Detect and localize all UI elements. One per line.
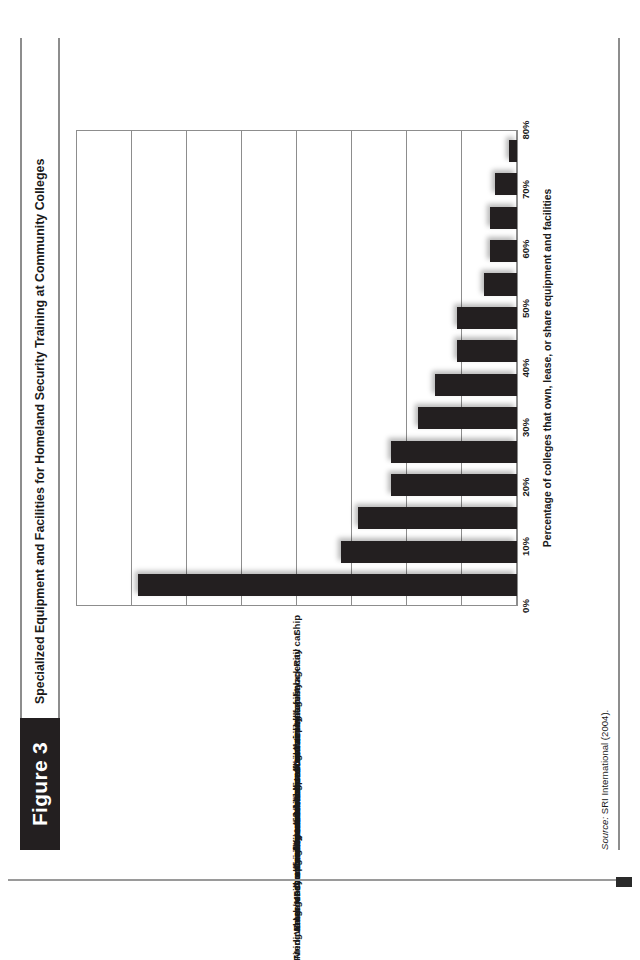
category-slot: Ship xyxy=(76,609,518,626)
figure-source: Source: SRI International (2004). xyxy=(599,709,610,849)
source-text: SRI International (2004). xyxy=(599,709,610,816)
plot-area xyxy=(76,130,518,606)
figure-header: Figure 3 Specialized Equipment and Facil… xyxy=(20,38,60,850)
bar-slot xyxy=(77,301,517,334)
value-axis-ticks: 0%10%20%30%40%50%60%70%80% xyxy=(520,130,540,606)
bar xyxy=(391,440,518,462)
tick-label: 60% xyxy=(520,239,531,258)
bar xyxy=(509,139,517,161)
bar xyxy=(358,507,518,529)
page-corner-marker xyxy=(616,877,632,887)
figure-number-tab: Figure 3 xyxy=(20,718,60,850)
bar-slot xyxy=(77,434,517,467)
bar-slot xyxy=(77,501,517,534)
tick-label: 40% xyxy=(520,358,531,377)
bar xyxy=(391,474,518,496)
figure-rotated-wrapper: Figure 3 Specialized Equipment and Facil… xyxy=(20,38,620,850)
bar xyxy=(490,206,518,228)
bar xyxy=(341,540,517,562)
category-axis-labels: Medical lab/Medical facilityFiring range… xyxy=(76,606,518,850)
bar-slot xyxy=(77,368,517,401)
tick-label: 80% xyxy=(520,120,531,139)
bar xyxy=(490,240,518,262)
bar xyxy=(138,574,518,596)
figure-header-rule xyxy=(58,38,60,718)
bar-slot xyxy=(77,234,517,267)
bar xyxy=(457,340,518,362)
figure-title: Specialized Equipment and Facilities for… xyxy=(20,158,60,703)
bar-slot xyxy=(77,535,517,568)
chart-block: Medical lab/Medical facilityFiring range… xyxy=(62,38,582,850)
page-bottom-rule xyxy=(8,879,632,881)
bar xyxy=(484,273,517,295)
bar-slot xyxy=(77,334,517,367)
value-axis-title: Percentage of colleges that own, lease, … xyxy=(542,130,553,606)
bar xyxy=(495,173,517,195)
bar xyxy=(435,373,518,395)
bar-slot xyxy=(77,200,517,233)
category-label: Ship xyxy=(292,615,302,636)
bar xyxy=(457,306,518,328)
bar-slot xyxy=(77,267,517,300)
bar-slot xyxy=(77,568,517,601)
tick-label: 0% xyxy=(520,599,531,613)
bar-slot xyxy=(77,468,517,501)
bar-slot xyxy=(77,401,517,434)
bar-slot xyxy=(77,167,517,200)
tick-label: 50% xyxy=(520,298,531,317)
figure-bottom-rule xyxy=(618,38,620,850)
category-label: Rail car xyxy=(292,632,302,667)
figure-container: Figure 3 Specialized Equipment and Facil… xyxy=(20,38,620,850)
source-prefix: Source: xyxy=(599,816,610,849)
bar xyxy=(418,407,517,429)
tick-label: 30% xyxy=(520,417,531,436)
figure-number-label: Figure 3 xyxy=(20,718,60,850)
bar-slot xyxy=(77,134,517,167)
tick-label: 20% xyxy=(520,477,531,496)
bar-series xyxy=(77,131,517,605)
tick-label: 70% xyxy=(520,179,531,198)
tick-label: 10% xyxy=(520,536,531,555)
